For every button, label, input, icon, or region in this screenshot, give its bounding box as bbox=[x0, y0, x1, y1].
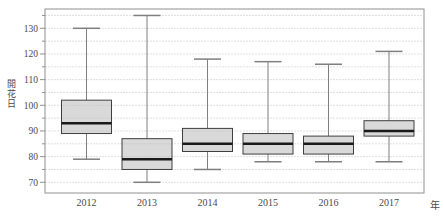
y-tick-label-100: 100 bbox=[24, 101, 39, 111]
x-axis-labels: 201220132014201520162017 bbox=[77, 197, 400, 208]
y-axis-title: 開花日 bbox=[5, 79, 17, 109]
x-tick-label-2017: 2017 bbox=[379, 197, 399, 208]
box-fill-2014 bbox=[183, 128, 233, 151]
boxplot-2012 bbox=[62, 28, 112, 159]
x-tick-label-2015: 2015 bbox=[258, 197, 278, 208]
y-tick-label-110: 110 bbox=[24, 75, 38, 85]
x-tick-label-2014: 2014 bbox=[198, 197, 218, 208]
y-tick-label-80: 80 bbox=[29, 152, 39, 162]
x-tick-label-2016: 2016 bbox=[319, 197, 339, 208]
boxplot-2014 bbox=[183, 59, 233, 169]
boxplot-chart: 7080901001101201302012201320142015201620… bbox=[0, 0, 444, 216]
y-axis-labels: 708090100110120130 bbox=[24, 24, 39, 188]
y-tick-label-90: 90 bbox=[29, 126, 39, 136]
boxplot-svg: 7080901001101201302012201320142015201620… bbox=[0, 0, 444, 216]
box-fills bbox=[62, 100, 415, 169]
x-axis-title: 年 bbox=[430, 197, 440, 212]
y-axis-ticks bbox=[40, 15, 45, 182]
gridlines bbox=[46, 15, 424, 182]
box-fill-2017 bbox=[364, 121, 414, 136]
y-tick-label-120: 120 bbox=[24, 49, 39, 59]
boxplot-2017 bbox=[364, 51, 414, 161]
x-tick-label-2012: 2012 bbox=[77, 197, 97, 208]
y-tick-label-130: 130 bbox=[24, 24, 39, 34]
y-tick-label-70: 70 bbox=[29, 178, 39, 188]
box-fill-2013 bbox=[122, 139, 172, 170]
box-fill-2012 bbox=[62, 100, 112, 133]
x-tick-label-2013: 2013 bbox=[137, 197, 157, 208]
